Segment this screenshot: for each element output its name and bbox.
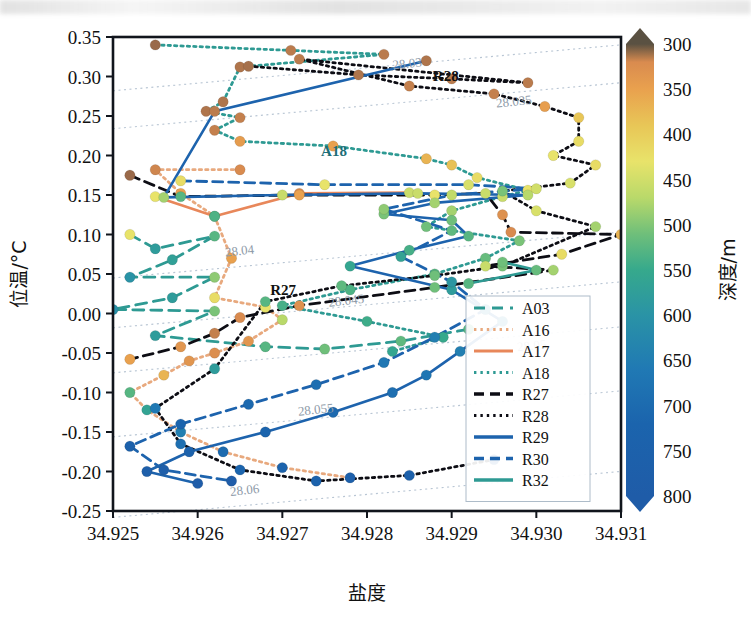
data-point xyxy=(159,465,169,475)
data-point xyxy=(209,293,219,303)
data-point xyxy=(506,227,516,237)
data-point xyxy=(565,178,575,188)
data-point xyxy=(514,236,524,246)
data-point xyxy=(430,282,440,292)
data-point xyxy=(209,231,219,241)
data-point xyxy=(353,70,363,80)
colorbar-tick-label: 500 xyxy=(663,215,692,236)
x-tick-label: 34.925 xyxy=(87,523,139,544)
data-point xyxy=(209,348,219,358)
data-point xyxy=(430,198,440,208)
data-point xyxy=(404,470,414,480)
data-point xyxy=(235,165,245,175)
data-point xyxy=(421,154,431,164)
data-point xyxy=(277,315,287,325)
data-point xyxy=(243,399,253,409)
data-point xyxy=(150,40,160,50)
data-point xyxy=(379,357,389,367)
data-point xyxy=(345,473,355,483)
data-point xyxy=(463,180,473,190)
legend-label-R32[interactable]: R32 xyxy=(522,472,549,489)
data-point xyxy=(150,165,160,175)
legend-label-A03[interactable]: A03 xyxy=(522,300,550,317)
data-point xyxy=(294,54,304,64)
data-point xyxy=(345,261,355,271)
data-point xyxy=(294,300,304,310)
colorbar-tick-label: 400 xyxy=(663,124,692,145)
data-point xyxy=(243,336,253,346)
y-tick-label: 0.05 xyxy=(68,264,101,285)
data-point xyxy=(396,336,406,346)
y-tick-label: 0.35 xyxy=(68,27,101,48)
data-point xyxy=(260,342,270,352)
data-point xyxy=(379,204,389,214)
legend-label-R29[interactable]: R29 xyxy=(522,429,549,446)
data-point xyxy=(311,476,321,486)
y-tick-label: -0.05 xyxy=(61,343,101,364)
colorbar-tick-label: 650 xyxy=(663,350,692,371)
colorbar-tick-label: 700 xyxy=(663,396,692,417)
x-tick-label: 34.931 xyxy=(595,523,647,544)
y-tick-label: -0.20 xyxy=(61,462,101,483)
data-point xyxy=(260,296,270,306)
figure-root: 34.92534.92634.92734.92834.92934.93034.9… xyxy=(0,0,751,620)
data-point xyxy=(472,172,482,182)
data-point xyxy=(184,447,194,457)
x-tick-label: 34.930 xyxy=(510,523,562,544)
data-point xyxy=(447,190,457,200)
data-point xyxy=(590,221,600,231)
data-point xyxy=(548,265,558,275)
colorbar-label: 深度/m xyxy=(717,239,739,302)
y-tick-label: -0.10 xyxy=(61,383,101,404)
data-point xyxy=(209,125,219,135)
data-point xyxy=(209,364,219,374)
data-point xyxy=(176,439,186,449)
data-point xyxy=(447,225,457,235)
legend-label-R28[interactable]: R28 xyxy=(522,408,549,425)
data-point xyxy=(311,379,321,389)
data-point xyxy=(447,277,457,287)
colorbar-tick-label: 600 xyxy=(663,305,692,326)
data-point xyxy=(379,49,389,59)
isopycnal-label: 28.04 xyxy=(224,242,255,260)
data-point xyxy=(531,206,541,216)
data-point xyxy=(480,188,490,198)
data-point xyxy=(277,462,287,472)
data-point xyxy=(184,356,194,366)
data-point xyxy=(193,478,203,488)
data-point xyxy=(590,160,600,170)
legend-label-R30[interactable]: R30 xyxy=(522,451,549,468)
data-point xyxy=(125,387,135,397)
data-point xyxy=(209,328,219,338)
data-point xyxy=(125,272,135,282)
y-tick-label: 0.25 xyxy=(68,106,101,127)
legend-label-A18[interactable]: A18 xyxy=(522,365,550,382)
colorbar-tick-label: 300 xyxy=(663,34,692,55)
data-point xyxy=(159,192,169,202)
data-point xyxy=(125,441,135,451)
data-point xyxy=(286,45,296,55)
data-point xyxy=(480,261,490,271)
legend-label-A16[interactable]: A16 xyxy=(522,322,550,339)
data-point xyxy=(523,78,533,88)
legend-label-R27[interactable]: R27 xyxy=(522,386,549,403)
colorbar-tick-label: 350 xyxy=(663,79,692,100)
colorbar-tick-label: 550 xyxy=(663,260,692,281)
data-point xyxy=(218,97,228,107)
legend-label-A17[interactable]: A17 xyxy=(522,343,550,360)
annotation-R27: R27 xyxy=(270,282,296,298)
data-point xyxy=(531,265,541,275)
data-point xyxy=(243,61,253,71)
data-point xyxy=(574,112,584,122)
data-point xyxy=(421,221,431,231)
y-tick-label: 0.15 xyxy=(68,185,101,206)
legend[interactable]: A03A16A17A18R27R28R29R30R32 xyxy=(466,296,590,502)
data-point xyxy=(396,251,406,261)
x-tick-label: 34.928 xyxy=(341,523,393,544)
data-point xyxy=(218,447,228,457)
y-tick-label: 0.10 xyxy=(68,225,101,246)
data-point xyxy=(235,112,245,122)
data-point xyxy=(447,206,457,216)
x-axis-label: 盐度 xyxy=(348,582,386,604)
y-tick-label: 0.30 xyxy=(68,67,101,88)
